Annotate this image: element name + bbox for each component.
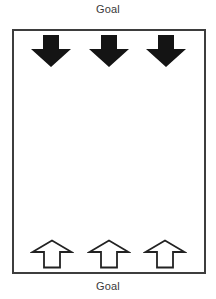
down-arrow-row	[14, 35, 204, 67]
up-arrow-row	[14, 239, 204, 269]
down-arrow-icon	[89, 35, 129, 67]
bottom-goal-label: Goal	[0, 280, 216, 293]
top-goal-label: Goal	[0, 3, 216, 16]
diagram-page: Goal Goal	[0, 0, 216, 299]
down-arrow-icon	[146, 35, 186, 67]
up-arrow-icon	[30, 239, 74, 269]
up-arrow-icon	[87, 239, 131, 269]
field-rectangle	[12, 29, 206, 274]
up-arrow-icon	[143, 239, 187, 269]
down-arrow-icon	[31, 35, 71, 67]
